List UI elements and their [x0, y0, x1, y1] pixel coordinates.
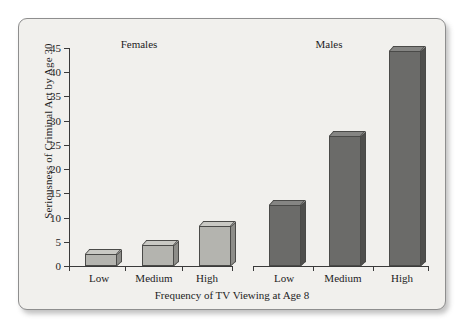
bar-face — [199, 226, 231, 266]
y-tick-label-0: 0 — [33, 260, 61, 272]
x-tick-males-start — [253, 266, 254, 271]
x-label-males-low: Low — [255, 272, 313, 284]
y-axis-title: Seriousness of Criminal Act by Age 30 — [42, 26, 54, 236]
bar-females-low — [85, 254, 117, 266]
bar-males-low — [269, 205, 301, 266]
bar-males-high — [389, 51, 421, 266]
x-label-females-low: Low — [71, 272, 127, 284]
panel-heading-males: Males — [269, 38, 389, 50]
x-tick-females-end — [232, 266, 233, 271]
y-tick-label-40: 40 — [33, 66, 61, 78]
x-axis-line-males — [253, 266, 429, 267]
y-tick-label-5: 5 — [33, 236, 61, 248]
x-tick-males-end — [428, 266, 429, 271]
x-tick-females-2 — [182, 266, 183, 271]
bar-face — [329, 136, 361, 266]
x-label-males-high: High — [375, 272, 429, 284]
x-tick-males-1 — [313, 266, 314, 271]
y-tick-mark-45 — [64, 48, 69, 49]
y-tick-label-45: 45 — [33, 42, 61, 54]
y-tick-mark-40 — [64, 72, 69, 73]
x-label-males-medium: Medium — [313, 272, 373, 284]
y-tick-mark-10 — [64, 218, 69, 219]
bar-side-face — [117, 249, 122, 266]
bar-females-medium — [142, 245, 174, 266]
y-tick-label-25: 25 — [33, 139, 61, 151]
figure-frame: Seriousness of Criminal Act by Age 30 0 … — [18, 18, 446, 310]
bar-side-face — [421, 47, 426, 266]
bar-face — [142, 245, 174, 266]
x-axis-line-females — [69, 266, 233, 267]
bar-face — [85, 254, 117, 266]
y-tick-mark-20 — [64, 169, 69, 170]
x-axis-title: Frequency of TV Viewing at Age 8 — [19, 289, 445, 301]
y-tick-label-10: 10 — [33, 212, 61, 224]
y-tick-label-35: 35 — [33, 90, 61, 102]
x-label-females-high: High — [182, 272, 232, 284]
x-tick-females-1 — [125, 266, 126, 271]
x-label-females-medium: Medium — [125, 272, 183, 284]
bar-females-high — [199, 226, 231, 266]
y-tick-mark-25 — [64, 145, 69, 146]
bar-face — [269, 205, 301, 266]
bar-side-face — [231, 222, 236, 266]
bar-side-face — [361, 132, 366, 266]
y-tick-mark-35 — [64, 96, 69, 97]
y-tick-mark-15 — [64, 193, 69, 194]
y-tick-label-30: 30 — [33, 115, 61, 127]
chart-plot-area: Seriousness of Criminal Act by Age 30 0 … — [19, 19, 445, 309]
x-tick-females-start — [69, 266, 70, 271]
y-tick-label-15: 15 — [33, 187, 61, 199]
bar-face — [389, 51, 421, 266]
y-tick-mark-5 — [64, 242, 69, 243]
y-tick-mark-30 — [64, 121, 69, 122]
bar-side-face — [301, 201, 306, 266]
bar-side-face — [174, 241, 179, 266]
panel-heading-females: Females — [79, 38, 199, 50]
y-tick-label-20: 20 — [33, 163, 61, 175]
x-tick-males-2 — [373, 266, 374, 271]
bar-males-medium — [329, 136, 361, 266]
y-axis-line — [69, 48, 70, 266]
